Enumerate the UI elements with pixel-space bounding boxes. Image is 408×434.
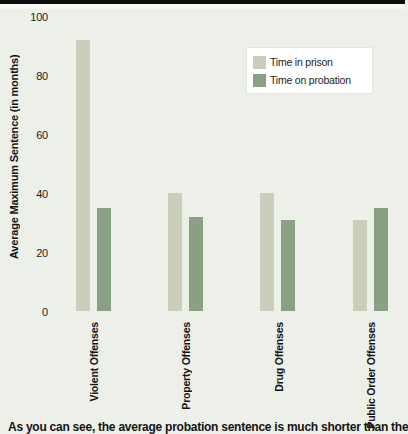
y-tick-label-60: 60 (0, 129, 48, 141)
figure-caption: As you can see, the average probation se… (8, 420, 408, 434)
y-tick-label-0: 0 (0, 306, 48, 318)
y-tick-label-100: 100 (0, 11, 48, 23)
banner-underline (0, 4, 405, 9)
legend: Time in prison Time on probation (246, 47, 373, 94)
bar-prison-3 (353, 220, 367, 311)
probation-color-swatch (253, 74, 266, 87)
category-label-2: Drug Offenses (273, 322, 286, 392)
legend-item-prison: Time in prison (253, 53, 372, 71)
y-tick-label-40: 40 (0, 188, 48, 200)
category-label-1: Property Offenses (180, 322, 193, 410)
bar-probation-0 (97, 208, 111, 311)
category-label-3: Public Order Offenses (365, 322, 378, 429)
y-tick-label-20: 20 (0, 247, 48, 259)
bar-prison-1 (168, 193, 182, 311)
bar-prison-0 (76, 40, 90, 311)
prison-color-swatch (253, 56, 266, 69)
bar-probation-3 (374, 208, 388, 311)
legend-item-probation: Time on probation (253, 71, 372, 89)
legend-label-prison: Time in prison (270, 56, 333, 68)
legend-label-probation: Time on probation (270, 74, 351, 86)
bar-probation-1 (189, 217, 203, 311)
bar-prison-2 (260, 193, 274, 311)
category-label-0: Violent Offenses (88, 322, 101, 401)
bar-probation-2 (281, 220, 295, 311)
y-tick-label-80: 80 (0, 70, 48, 82)
